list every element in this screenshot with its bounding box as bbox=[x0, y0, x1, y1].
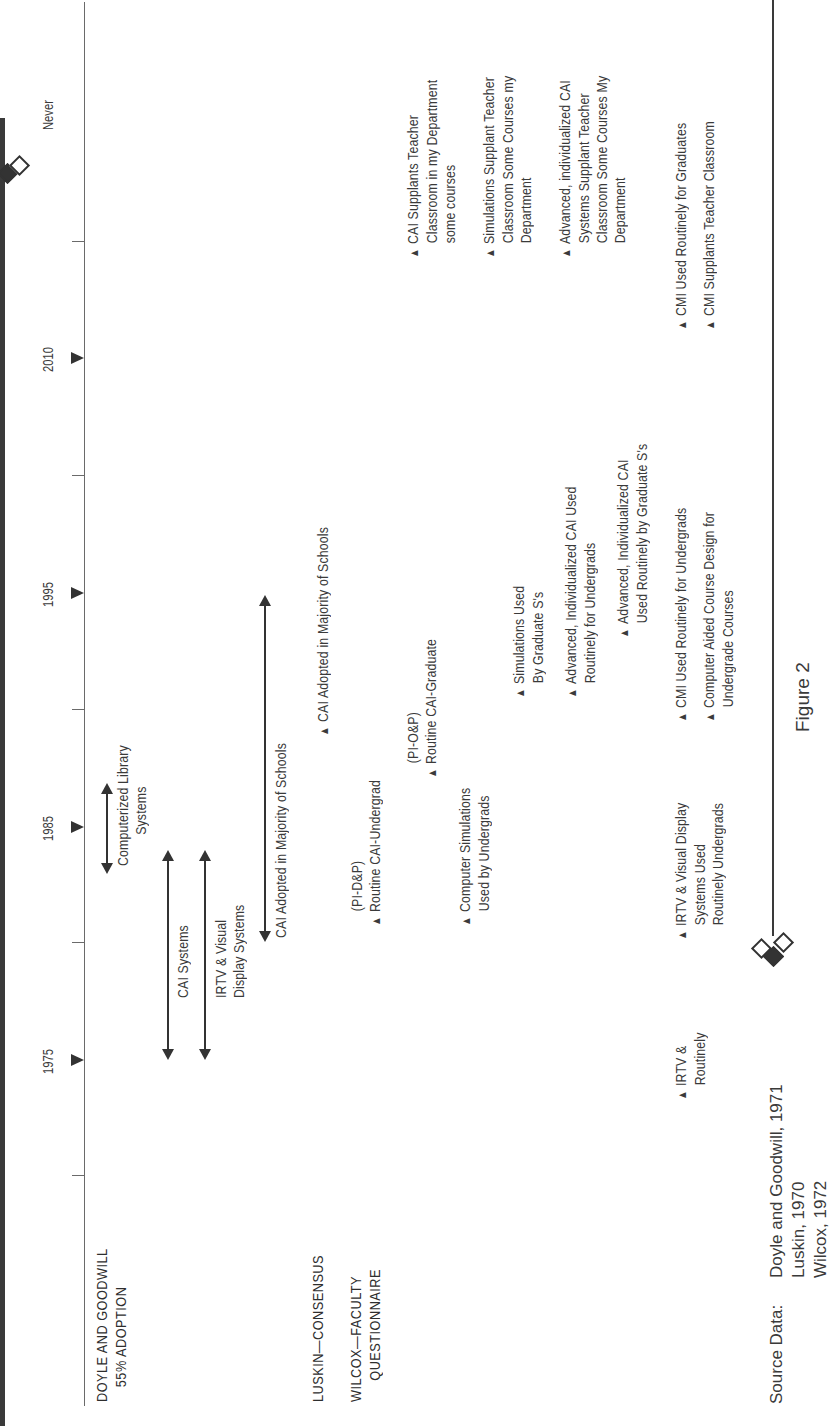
source-data-list: Doyle and Goodwill, 1971 Luskin, 1970 Wi… bbox=[766, 1084, 832, 1278]
year-marker-1995 bbox=[71, 587, 84, 599]
event-routine-cai-graduate: (PI-O&P) Routine CAI-Graduate bbox=[404, 639, 441, 778]
source-doyle: Doyle and Goodwill, 1971 bbox=[766, 1084, 788, 1278]
tick-label-never: Never bbox=[40, 100, 56, 130]
source-data-label: Source Data: bbox=[766, 1305, 788, 1404]
tick-label-2010: 2010 bbox=[40, 347, 56, 372]
tick-label-1995: 1995 bbox=[40, 582, 56, 607]
event-advanced-cai-supplant-teacher: Advanced, individualized CAI Systems Sup… bbox=[556, 76, 629, 258]
source-wilcox: Wilcox, 1972 bbox=[810, 1084, 832, 1278]
range-arrow-irtv-visual bbox=[204, 852, 206, 1058]
event-cmi-undergrads: CMI Used Routinely for Undergrads bbox=[672, 508, 691, 722]
minor-tick bbox=[72, 709, 84, 710]
rotated-figure: 1975 1985 1995 2010 Never DOYLE AND GOOD… bbox=[0, 0, 840, 1426]
year-marker-1975 bbox=[71, 1054, 84, 1066]
event-cmi-supplants-teacher: CMI Supplants Teacher Classroom bbox=[700, 121, 719, 330]
minor-tick bbox=[72, 942, 84, 943]
range-label-computerized-library: Computerized Library Systems bbox=[114, 745, 150, 866]
source-luskin: Luskin, 1970 bbox=[788, 1084, 810, 1278]
range-arrow-cai-adopted-majority bbox=[264, 597, 266, 940]
range-arrow-computerized-library bbox=[106, 785, 108, 872]
bottom-rule bbox=[772, 0, 774, 936]
row-label-doyle-line1: DOYLE AND GOODWILL bbox=[92, 1248, 111, 1402]
event-simulations-supplant-teacher: Simulations Supplant Teacher Classroom S… bbox=[480, 76, 535, 258]
row-label-luskin: LUSKIN—CONSENSUS bbox=[308, 1255, 327, 1402]
event-luskin-cai-adopted: CAI Adopted in Majority of Schools bbox=[314, 527, 333, 736]
event-cmi-graduates: CMI Used Routinely for Graduates bbox=[672, 123, 691, 330]
row-label-doyle-line2: 55% ADOPTION bbox=[111, 1248, 130, 1402]
event-advanced-cai-graduate: Advanced, Individualized CAI Used Routin… bbox=[614, 444, 651, 638]
figure-caption: Figure 2 bbox=[792, 662, 814, 732]
event-advanced-cai-undergrads: Advanced, Individualized CAI Used Routin… bbox=[562, 486, 599, 698]
range-label-cai-adopted-majority: CAI Adopted in Majority of Schools bbox=[272, 743, 290, 938]
frame-bar bbox=[0, 118, 5, 1426]
event-simulations-graduate: Simulations Used By Graduate S's bbox=[510, 586, 547, 698]
row-label-wilcox-line2: QUESTIONNAIRE bbox=[365, 1269, 384, 1402]
event-computer-aided-course-design: Computer Aided Course Design for Undergr… bbox=[700, 512, 737, 722]
event-cai-supplants-teacher: CAI Supplants Teacher Classroom in my De… bbox=[404, 80, 459, 258]
row-label-wilcox-line1: WILCOX—FACULTY bbox=[346, 1269, 365, 1402]
minor-tick bbox=[72, 475, 84, 476]
minor-tick bbox=[72, 1175, 84, 1176]
range-arrow-cai-systems bbox=[167, 852, 169, 1058]
year-marker-1985 bbox=[71, 821, 84, 833]
event-routine-cai-undergrad: (PI-D&P) Routine CAI-Undergrad bbox=[348, 780, 385, 926]
tick-label-1975: 1975 bbox=[40, 1049, 56, 1074]
event-irtv-visual-display-undergrads: IRTV & Visual Display Systems Used Routi… bbox=[672, 803, 727, 940]
event-irtv-routinely: IRTV & Routinely bbox=[672, 1032, 709, 1100]
event-computer-simulations-undergrads: Computer Simulations Used by Undergrads bbox=[456, 788, 493, 926]
row-label-doyle: DOYLE AND GOODWILL 55% ADOPTION bbox=[92, 1248, 130, 1402]
range-label-cai-systems: CAI Systems bbox=[174, 925, 192, 998]
range-label-irtv-visual: IRTV & Visual Display Systems bbox=[212, 905, 248, 998]
row-label-wilcox: WILCOX—FACULTY QUESTIONNAIRE bbox=[346, 1269, 384, 1402]
timeline-axis bbox=[84, 2, 85, 1406]
year-marker-2010 bbox=[71, 352, 84, 364]
tick-label-1985: 1985 bbox=[40, 816, 56, 841]
minor-tick bbox=[72, 241, 84, 242]
